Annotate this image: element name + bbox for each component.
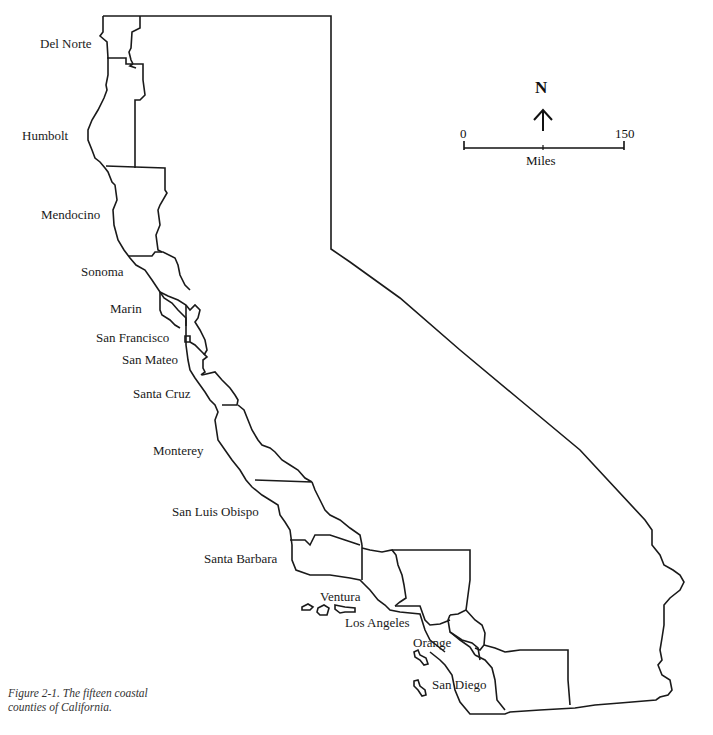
label-marin: Marin [110, 302, 142, 315]
ventura-boundary [362, 548, 406, 606]
label-orange: Orange [413, 636, 451, 649]
label-del-norte: Del Norte [40, 37, 92, 50]
santa-cruz-boundary [202, 372, 238, 405]
north-arrow-icon [534, 110, 552, 131]
island [317, 605, 329, 615]
island [414, 680, 426, 696]
label-los-angeles: Los Angeles [345, 616, 410, 629]
caption-line-2: counties of California. [8, 700, 148, 714]
label-san-luis-obispo: San Luis Obispo [172, 505, 259, 518]
caption-line-1: Figure 2-1. The fifteen coastal [8, 686, 148, 700]
label-monterey: Monterey [153, 444, 204, 457]
label-mendocino: Mendocino [41, 208, 100, 221]
north-label: N [535, 78, 547, 98]
label-ventura: Ventura [320, 590, 360, 603]
label-san-francisco: San Francisco [96, 331, 169, 344]
san-mateo-boundary [190, 342, 207, 375]
orange-boundary [450, 610, 485, 655]
label-humbolt: Humbolt [22, 129, 68, 142]
scale-start-label: 0 [460, 126, 467, 142]
slo-boundary [290, 482, 362, 545]
state-outline [103, 16, 684, 714]
mendocino-boundary [128, 252, 190, 290]
label-santa-cruz: Santa Cruz [133, 387, 190, 400]
monterey-boundary [238, 405, 312, 482]
humbolt-boundary [106, 166, 167, 252]
scale-end-label: 150 [615, 126, 635, 142]
label-santa-barbara: Santa Barbara [204, 552, 277, 565]
island [302, 604, 313, 610]
san-francisco-boundary [185, 336, 190, 342]
island [335, 605, 355, 613]
label-san-diego: San Diego [432, 678, 487, 691]
sonoma-boundary [160, 292, 207, 355]
label-sonoma: Sonoma [81, 265, 124, 278]
island [414, 650, 428, 665]
figure-caption: Figure 2-1. The fifteen coastal counties… [8, 686, 148, 714]
label-san-mateo: San Mateo [122, 353, 178, 366]
scale-unit-label: Miles [526, 153, 556, 169]
del-norte-boundary [107, 16, 145, 168]
scale-bar [464, 141, 624, 150]
